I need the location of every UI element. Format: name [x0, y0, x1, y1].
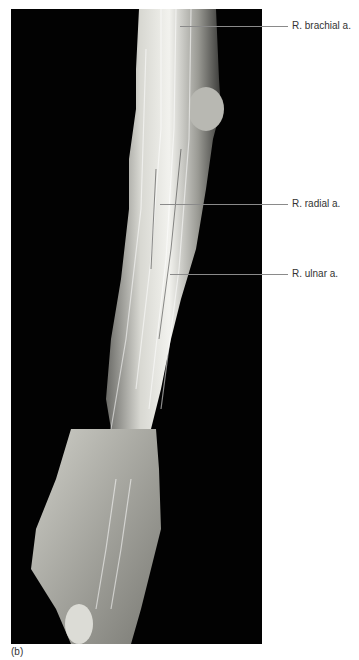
- label-radial-artery: R. radial a.: [292, 198, 340, 210]
- figure-caption: (b): [11, 646, 23, 657]
- label-ulnar-artery: R. ulnar a.: [292, 268, 338, 280]
- radial-leader-line: [160, 204, 288, 205]
- brachial-leader-line: [180, 26, 288, 27]
- dissection-photo: [11, 9, 262, 644]
- label-brachial-artery: R. brachial a.: [292, 20, 351, 32]
- forearm-illustration: [11, 9, 262, 644]
- ulnar-leader-line: [170, 274, 288, 275]
